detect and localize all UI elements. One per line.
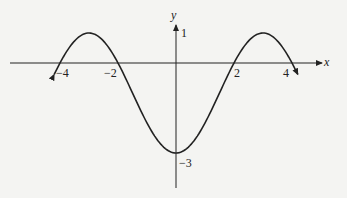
plot-area bbox=[0, 0, 347, 198]
x-tick-label: −4 bbox=[56, 67, 69, 79]
x-tick-label: −2 bbox=[104, 67, 117, 79]
x-axis-label: x bbox=[324, 56, 329, 68]
x-tick-label: 4 bbox=[283, 67, 289, 79]
x-tick-label: 2 bbox=[234, 67, 240, 79]
y-tick-label: 1 bbox=[181, 27, 187, 39]
y-tick-label: −3 bbox=[179, 157, 192, 169]
graph-figure: x y −4 −2 2 4 1 −3 bbox=[0, 0, 347, 198]
y-axis-label: y bbox=[171, 9, 176, 21]
